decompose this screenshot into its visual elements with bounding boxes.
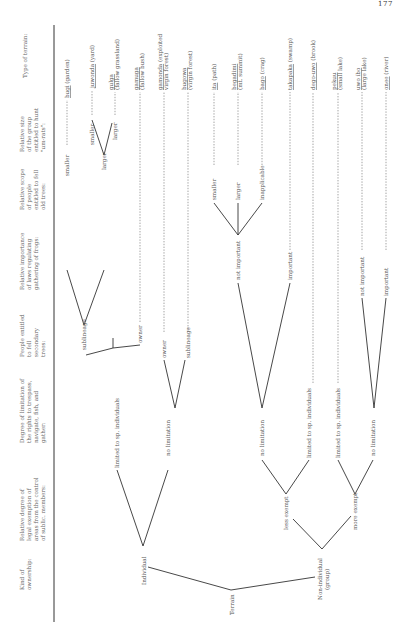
node-less-no-limitation: no limitation [259, 420, 265, 456]
terrain-labels: bugi (garden) juwonda (yard) gulga(fallo… [64, 33, 389, 98]
header-hunt-group-size: Relative sizeof the groupentitled to hun… [19, 107, 46, 152]
terrain-bugi: bugi (garden) [64, 59, 71, 98]
terrain-dego-uwo: dego-uwo (brook) [310, 40, 317, 90]
node-ind-limited: limited to sp. individuals [114, 398, 121, 468]
node-more-limited: limited to sp. individuals [335, 388, 342, 458]
node-owner-2: owner [161, 340, 167, 358]
terrain-takapaka: takapaka (swamp) [287, 38, 294, 90]
node-old-trees-larger-2: larger [235, 182, 242, 200]
node-non-individual-group: (group) [324, 569, 331, 590]
terrain-onee: onee (river) [383, 57, 389, 90]
node-less-limited: limited to sp. individuals [306, 388, 313, 458]
node-frog-not-important-2: not important [359, 256, 366, 296]
terrain-begadimi: begadimi(mt. summit) [231, 53, 243, 90]
terrain-juwonda: juwonda (yard) [89, 45, 96, 89]
node-hunt-smaller: smaller [89, 124, 95, 145]
header-old-trees: Relative scopeof peopleentitled to fello… [19, 168, 46, 210]
node-frog-not-important-1: not important [235, 240, 242, 280]
node-frog-important-2: important [383, 267, 390, 296]
ownership-decision-tree: Kind ofownership: Relative degree oflega… [0, 0, 413, 643]
terrain-gamonda: gamonda (exploitedvirgin forest) [157, 33, 170, 91]
header-kind-of-ownership: Kind ofownership: [19, 558, 33, 590]
node-old-trees-smaller-1: smaller [64, 155, 70, 176]
node-owner-1: owner [137, 325, 143, 343]
node-frog-important-1: important [287, 251, 294, 280]
node-sublineage-1: sublineage [81, 319, 88, 350]
node-less-exempt: less exempt [283, 496, 290, 530]
node-old-trees-larger-1: larger [101, 152, 108, 170]
terrain-ita: ita (path) [211, 64, 218, 90]
terrain-gulga: gulga(fallow grassland) [108, 39, 121, 90]
node-sublineage-2: sublineage [185, 327, 192, 358]
node-old-trees-inapplicable: inapplicable [259, 165, 266, 200]
node-ind-no-limitation: no limitation [165, 420, 171, 456]
terrain-bugowa: bugowa(virgin forest) [181, 51, 194, 90]
node-non-individual: Non-individual [317, 558, 323, 600]
header-legal-exemption: Relative degree oflegal exemption ofarea… [19, 477, 46, 541]
node-labels: Terrain Individual Non-individual (group… [64, 122, 390, 615]
header-frog-laws: Relative importanceof laws regulatinggat… [19, 232, 40, 290]
terrain-gamuga: gamuga(fallow bush) [133, 53, 145, 90]
terrain-bago: bago (crag) [259, 57, 266, 90]
node-root-terrain: Terrain [229, 594, 235, 615]
header-terrain-type: Type of terrain: [22, 34, 29, 78]
header-secondary-trees: People entitledto fellsecondarytrees: [19, 314, 46, 357]
node-old-trees-smaller-2: smaller [211, 179, 217, 200]
node-individual: Individual [141, 556, 147, 585]
terrain-uwo-ibo: uwo ibo(large lake) [355, 57, 368, 90]
node-hunt-larger: larger [112, 122, 119, 140]
node-more-no-limitation: no limitation [370, 420, 376, 456]
header-limitation-rights: Degree of limitation ofthe rights to tre… [19, 378, 47, 443]
terrain-pekuu: pekuu(small lake) [331, 57, 343, 90]
column-headers: Kind ofownership: Relative degree oflega… [19, 34, 47, 590]
node-more-exempt: more exempt [352, 492, 359, 530]
